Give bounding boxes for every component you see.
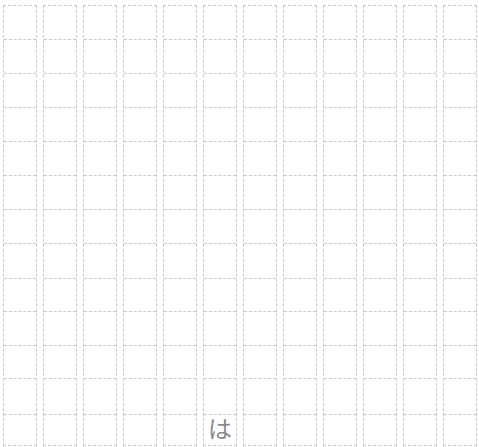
grid-cell[interactable] (4, 175, 36, 209)
grid-cell[interactable] (324, 378, 356, 414)
grid-cell[interactable] (284, 141, 316, 175)
grid-cell[interactable] (164, 73, 196, 107)
grid-cell[interactable] (284, 311, 316, 345)
grid-cell[interactable] (324, 278, 356, 311)
grid-cell[interactable] (44, 209, 76, 243)
grid-cell[interactable] (284, 278, 316, 311)
grid-cell[interactable] (404, 378, 436, 414)
grid-cell[interactable] (164, 278, 196, 311)
grid-cell[interactable] (4, 414, 36, 445)
grid-cell[interactable] (244, 6, 276, 39)
grid-cell[interactable] (404, 414, 436, 445)
grid-cell[interactable] (44, 175, 76, 209)
grid-cell[interactable] (44, 39, 76, 73)
grid-cell[interactable] (444, 39, 476, 73)
grid-cell[interactable] (364, 6, 396, 39)
grid-cell[interactable] (204, 141, 236, 175)
grid-cell[interactable] (364, 39, 396, 73)
grid-cell[interactable] (84, 414, 116, 445)
grid-cell[interactable] (204, 243, 236, 278)
grid-cell[interactable] (204, 345, 236, 378)
grid-cell[interactable] (324, 243, 356, 278)
grid-cell[interactable] (44, 141, 76, 175)
grid-cell[interactable] (164, 107, 196, 141)
grid-cell[interactable] (444, 414, 476, 445)
grid-cell[interactable] (404, 6, 436, 39)
grid-cell[interactable] (244, 141, 276, 175)
grid-cell[interactable] (244, 414, 276, 445)
grid-cell[interactable] (84, 39, 116, 73)
grid-cell[interactable] (84, 73, 116, 107)
grid-cell[interactable] (244, 107, 276, 141)
grid-cell[interactable] (244, 345, 276, 378)
grid-cell[interactable] (284, 378, 316, 414)
grid-cell[interactable] (284, 6, 316, 39)
grid-cell[interactable] (204, 73, 236, 107)
grid-cell[interactable] (204, 278, 236, 311)
grid-cell[interactable] (204, 107, 236, 141)
grid-cell[interactable] (324, 414, 356, 445)
grid-cell[interactable] (244, 278, 276, 311)
grid-cell[interactable] (324, 175, 356, 209)
grid-cell[interactable] (124, 141, 156, 175)
grid-cell[interactable] (404, 278, 436, 311)
grid-cell[interactable] (444, 378, 476, 414)
grid-cell[interactable] (324, 6, 356, 39)
grid-cell[interactable] (124, 378, 156, 414)
grid-cell[interactable] (164, 209, 196, 243)
grid-cell[interactable] (244, 175, 276, 209)
grid-cell[interactable] (244, 311, 276, 345)
grid-cell[interactable] (284, 345, 316, 378)
grid-cell[interactable] (244, 39, 276, 73)
grid-cell[interactable] (364, 209, 396, 243)
grid-cell[interactable] (164, 175, 196, 209)
grid-cell[interactable] (324, 141, 356, 175)
grid-cell[interactable] (164, 345, 196, 378)
grid-cell[interactable] (44, 278, 76, 311)
grid-cell[interactable] (84, 311, 116, 345)
grid-cell[interactable] (44, 107, 76, 141)
grid-cell[interactable] (124, 73, 156, 107)
grid-cell[interactable] (244, 209, 276, 243)
grid-cell[interactable] (284, 39, 316, 73)
grid-cell[interactable] (444, 73, 476, 107)
grid-cell[interactable] (4, 278, 36, 311)
grid-cell[interactable] (84, 107, 116, 141)
grid-cell[interactable] (124, 175, 156, 209)
grid-cell[interactable] (44, 378, 76, 414)
grid-cell[interactable] (364, 278, 396, 311)
grid-cell[interactable] (364, 73, 396, 107)
grid-cell[interactable] (164, 39, 196, 73)
grid-cell[interactable] (44, 243, 76, 278)
grid-cell[interactable] (444, 209, 476, 243)
grid-cell[interactable] (44, 414, 76, 445)
grid-cell[interactable] (404, 209, 436, 243)
grid-cell[interactable] (4, 107, 36, 141)
grid-cell[interactable] (204, 311, 236, 345)
grid-cell[interactable] (404, 311, 436, 345)
grid-cell[interactable] (44, 345, 76, 378)
grid-cell[interactable] (84, 378, 116, 414)
grid-cell[interactable] (204, 175, 236, 209)
grid-cell[interactable] (404, 73, 436, 107)
grid-cell[interactable] (4, 6, 36, 39)
grid-cell[interactable] (284, 209, 316, 243)
grid-cell[interactable] (404, 243, 436, 278)
grid-cell[interactable] (324, 107, 356, 141)
grid-cell[interactable] (364, 345, 396, 378)
grid-cell[interactable] (404, 345, 436, 378)
grid-cell[interactable] (404, 141, 436, 175)
grid-cell[interactable] (404, 39, 436, 73)
grid-cell[interactable] (204, 6, 236, 39)
grid-cell[interactable] (404, 175, 436, 209)
grid-cell[interactable] (124, 345, 156, 378)
grid-cell[interactable] (4, 345, 36, 378)
grid-cell[interactable] (284, 175, 316, 209)
grid-cell[interactable] (444, 107, 476, 141)
grid-cell[interactable] (364, 243, 396, 278)
grid-cell[interactable] (4, 311, 36, 345)
grid-cell[interactable] (84, 175, 116, 209)
grid-cell[interactable] (84, 141, 116, 175)
grid-cell[interactable] (4, 243, 36, 278)
grid-cell[interactable] (324, 39, 356, 73)
